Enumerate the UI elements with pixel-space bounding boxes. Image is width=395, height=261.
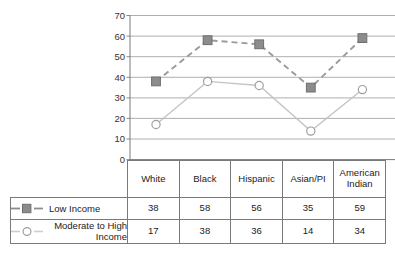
table-header-row: White Black Hispanic Asian/PI American I… [11,161,386,198]
column-header-american-indian: American Indian [334,161,386,198]
data-point-low-income-asian-pi [306,83,315,92]
data-table: White Black Hispanic Asian/PI American I… [10,160,386,244]
legend-entry-low-income: Low Income [11,198,128,220]
series-moderate-to-high-income [152,77,367,135]
y-tick-60: 60 [114,31,125,42]
legend-label-line-2: Income [96,231,127,242]
data-point-mod-high-hispanic [255,81,263,89]
cell-low-income-hispanic: 56 [231,198,283,220]
gridlines [130,16,395,140]
legend-label-moderate-to-high-income: Moderate to High Income [49,220,127,243]
cell-low-income-black: 58 [179,198,231,220]
y-axis-tick-marks [127,16,131,160]
data-point-low-income-white [152,77,161,86]
legend-entry-moderate-to-high-income: Moderate to High Income [11,220,128,244]
column-header-hispanic: Hispanic [231,161,283,198]
data-point-mod-high-asian-pi [307,127,315,135]
cell-mod-high-white: 17 [128,220,180,244]
y-tick-70: 70 [114,10,125,21]
y-tick-40: 40 [114,72,125,83]
legend-label-low-income: Low Income [49,203,127,214]
line-chart: 70 60 50 40 30 20 10 0 [0,0,395,170]
y-axis-tick-labels: 70 60 50 40 30 20 10 0 [114,10,125,165]
data-point-low-income-hispanic [255,40,264,49]
y-tick-10: 10 [114,133,125,144]
square-marker-icon [11,203,45,214]
data-point-mod-high-white [152,120,160,128]
legend-label-line-1: Moderate to High [54,220,127,231]
cell-low-income-white: 38 [128,198,180,220]
column-header-white: White [128,161,180,198]
column-header-black: Black [179,161,231,198]
table-row: Moderate to High Income 17 38 36 14 34 [11,220,386,244]
y-tick-20: 20 [114,113,125,124]
cell-mod-high-black: 38 [179,220,231,244]
column-header-asian-pi: Asian/PI [282,161,334,198]
table-row: Low Income 38 58 56 35 59 [11,198,386,220]
cell-mod-high-hispanic: 36 [231,220,283,244]
cell-low-income-asian-pi: 35 [282,198,334,220]
data-point-mod-high-black [204,77,212,85]
data-point-low-income-black [203,36,212,45]
y-tick-30: 30 [114,92,125,103]
cell-mod-high-asian-pi: 14 [282,220,334,244]
header-legend-blank [11,161,128,198]
chart-figure: 70 60 50 40 30 20 10 0 [0,0,395,261]
data-point-mod-high-american-indian [358,86,366,94]
y-tick-50: 50 [114,51,125,62]
chart-canvas: 70 60 50 40 30 20 10 0 [0,0,395,170]
cell-low-income-american-indian: 59 [334,198,386,220]
cell-mod-high-american-indian: 34 [334,220,386,244]
circle-marker-icon [11,226,45,237]
data-point-low-income-american-indian [358,34,367,43]
